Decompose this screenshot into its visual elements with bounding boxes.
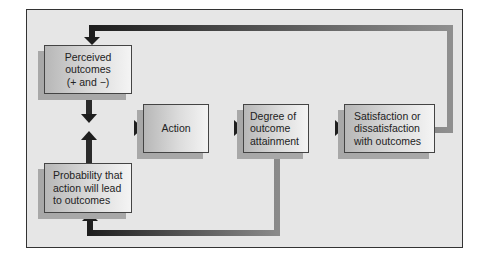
arrow-to-action	[103, 120, 143, 136]
node-label: Degree of outcome attainment	[250, 110, 299, 148]
node-label: Satisfaction or dissatisfaction with out…	[354, 110, 421, 148]
node-satisfaction: Satisfaction or dissatisfaction with out…	[344, 104, 435, 153]
node-label: Perceived outcomes (+ and −)	[65, 51, 112, 89]
node-degree-of-outcome-attainment: Degree of outcome attainment	[243, 104, 309, 153]
arrow-action-to-degree	[208, 120, 243, 136]
arrow-probability-up	[81, 131, 97, 163]
node-action: Action	[143, 104, 209, 153]
node-label: Action	[161, 122, 190, 135]
node-probability: Probability that action will lead to out…	[44, 163, 132, 213]
arrow-perceived-down	[81, 93, 97, 123]
node-label: Probability that action will lead to out…	[53, 169, 122, 207]
arrow-degree-to-satisfaction	[308, 120, 344, 136]
node-perceived-outcomes: Perceived outcomes (+ and −)	[44, 45, 132, 94]
